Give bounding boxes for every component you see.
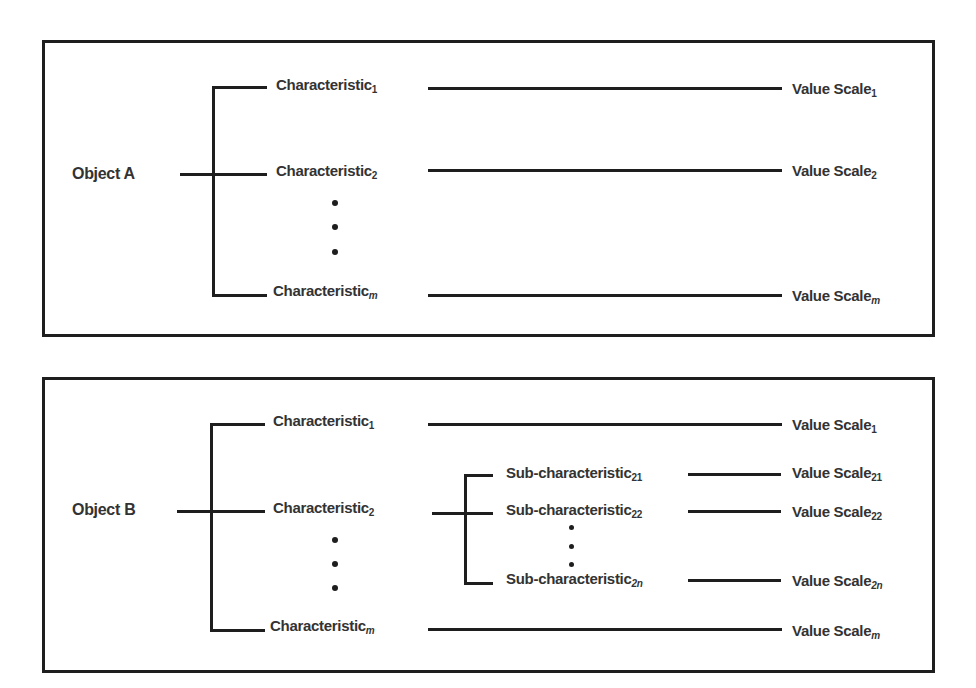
object-a-bracket (212, 86, 215, 297)
characteristic-b-1: Characteristic1 (273, 412, 374, 430)
branch-a-m (212, 294, 267, 297)
sub-characteristic-2n: Sub-characteristic2n (506, 570, 643, 588)
characteristic-a-2: Characteristic2 (276, 162, 377, 180)
link-b-1 (428, 423, 782, 426)
object-a-connector (180, 173, 267, 176)
link-b-m (428, 628, 782, 631)
value-scale-b-2n: Value Scale2n (792, 572, 882, 590)
link-b-22 (688, 510, 781, 513)
ellipsis-dot-icon (332, 249, 338, 255)
value-scale-b-22: Value Scale22 (792, 503, 882, 521)
value-scale-b-21: Value Scale21 (792, 464, 882, 482)
characteristic-b-2-connector (432, 512, 493, 515)
link-b-2n (688, 579, 781, 582)
branch-b-m (210, 629, 265, 632)
link-a-m (428, 294, 782, 297)
ellipsis-dot-icon (332, 200, 338, 206)
branch-b-1 (210, 423, 265, 426)
characteristic-a-m: Characteristicm (273, 282, 377, 300)
link-b-21 (688, 473, 781, 476)
characteristic-b-m: Characteristicm (270, 617, 374, 635)
characteristic-a-1: Characteristic1 (276, 76, 377, 94)
ellipsis-dot-icon (332, 537, 338, 543)
link-a-2 (428, 169, 782, 172)
value-scale-a-2: Value Scale2 (792, 162, 877, 180)
sub-bracket (464, 474, 467, 585)
value-scale-b-m: Value Scalem (792, 622, 880, 640)
value-scale-a-1: Value Scale1 (792, 80, 877, 98)
sub-characteristic-21: Sub-characteristic21 (506, 464, 642, 482)
ellipsis-dot-icon (569, 525, 574, 530)
ellipsis-dot-icon (569, 544, 574, 549)
characteristic-b-2: Characteristic2 (273, 499, 374, 517)
sub-branch-21 (464, 474, 493, 477)
object-b-connector (177, 510, 265, 513)
ellipsis-dot-icon (332, 561, 338, 567)
object-a-label: Object A (72, 165, 135, 183)
sub-branch-2n (464, 582, 493, 585)
value-scale-b-1: Value Scale1 (792, 416, 877, 434)
ellipsis-dot-icon (569, 562, 574, 567)
object-b-bracket (210, 423, 213, 632)
object-b-label: Object B (72, 501, 135, 519)
value-scale-a-m: Value Scalem (792, 287, 880, 305)
ellipsis-dot-icon (332, 224, 338, 230)
branch-a-1 (212, 86, 267, 89)
sub-characteristic-22: Sub-characteristic22 (506, 501, 642, 519)
link-a-1 (428, 87, 782, 90)
ellipsis-dot-icon (332, 585, 338, 591)
